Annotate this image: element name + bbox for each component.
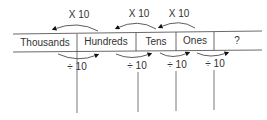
column-label-hundreds: Hundreds xyxy=(84,36,127,47)
column-label-thousands: Thousands xyxy=(20,37,69,48)
multiply-arrow xyxy=(117,23,156,29)
divide-label: ÷ 10 xyxy=(167,59,187,70)
table-top-line xyxy=(13,31,262,34)
multiply-label: X 10 xyxy=(169,8,190,19)
divide-arrow xyxy=(160,53,188,57)
divide-label: ÷ 10 xyxy=(205,58,225,69)
column-label-ones: Ones xyxy=(183,35,207,46)
divide-arrow xyxy=(116,54,150,58)
table-bottom-line xyxy=(13,50,262,52)
place-value-diagram: Thousands Hundreds Tens Ones ? X 10 X 10… xyxy=(0,0,267,120)
multiply-label: X 10 xyxy=(69,9,90,20)
multiply-arrow xyxy=(54,25,98,31)
divide-arrow xyxy=(197,53,227,56)
column-label-tens: Tens xyxy=(145,36,166,47)
multiply-label: X 10 xyxy=(129,8,150,19)
divide-label: ÷ 10 xyxy=(127,60,147,71)
column-label-unknown: ? xyxy=(234,35,240,46)
multiply-arrow xyxy=(160,23,195,28)
divide-arrow xyxy=(58,54,97,59)
